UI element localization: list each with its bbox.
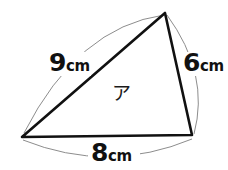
side-length-label-b: 6cm (183, 50, 224, 75)
side-length-unit-c: cm (108, 147, 132, 165)
side-length-value-a: 9 (49, 48, 66, 77)
side-length-label-a: 9cm (49, 50, 90, 75)
side-length-unit-b: cm (200, 57, 224, 75)
geometry-figure: 9cm 6cm 8cm ア (0, 0, 228, 170)
side-length-value-b: 6 (183, 48, 200, 77)
side-length-label-c: 8cm (91, 140, 132, 165)
side-length-value-c: 8 (91, 138, 108, 167)
region-label-interior: ア (112, 84, 131, 103)
side-length-unit-a: cm (66, 57, 90, 75)
